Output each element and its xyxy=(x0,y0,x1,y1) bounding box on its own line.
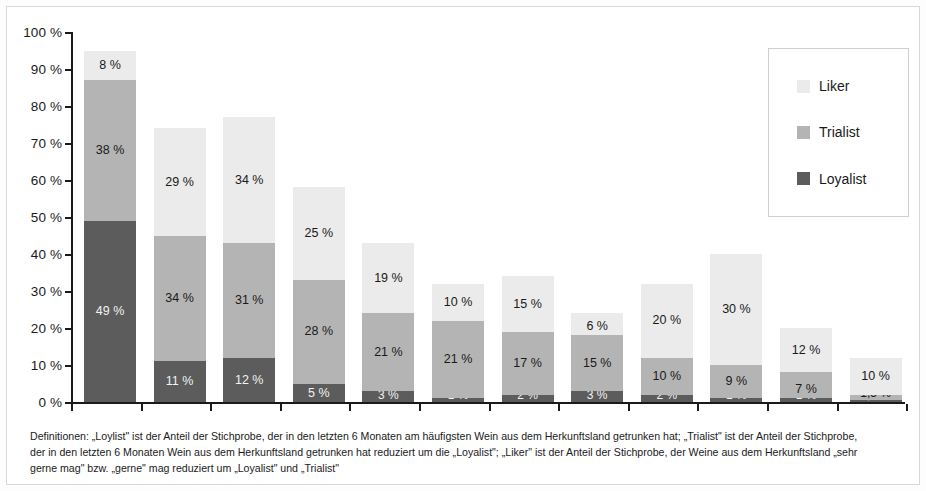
x-tick-mark xyxy=(558,404,560,411)
y-tick-mark xyxy=(65,254,71,256)
bar-segment-loyalist[interactable]: 1 % xyxy=(780,398,832,402)
bar-segment-liker[interactable]: 15 % xyxy=(502,276,554,332)
y-tick-label: 90 % xyxy=(31,62,62,77)
bar-column[interactable]: 2 %17 %15 % xyxy=(502,276,554,402)
bar-segment-liker[interactable]: 10 % xyxy=(850,358,902,395)
bar-column[interactable]: 1 %7 %12 % xyxy=(780,328,832,402)
bar-segment-trialist[interactable]: 21 % xyxy=(362,313,414,391)
bar-column[interactable]: 12 %31 %34 % xyxy=(223,117,275,402)
bar-segment-loyalist[interactable]: 1 % xyxy=(710,398,762,402)
bar-segment-label: 10 % xyxy=(861,370,890,383)
bar-column[interactable]: 49 %38 %8 % xyxy=(84,51,136,402)
bar-segment-liker[interactable]: 12 % xyxy=(780,328,832,372)
x-tick-mark xyxy=(628,404,630,411)
y-tick-label: 20 % xyxy=(31,321,62,336)
bar-segment-trialist[interactable]: 9 % xyxy=(710,365,762,398)
bar-segment-label: 8 % xyxy=(99,59,121,72)
x-tick-mark xyxy=(210,404,212,411)
bar-segment-trialist[interactable]: 21 % xyxy=(432,321,484,399)
bar-segment-label: 34 % xyxy=(165,292,194,305)
bar-segment-loyalist[interactable]: 1 % xyxy=(432,398,484,402)
bar-segment-trialist[interactable]: 10 % xyxy=(641,358,693,395)
bar-segment-label: 34 % xyxy=(235,174,264,187)
footnote-line-3: gerne mag" bzw. „gerne" mag reduziert um… xyxy=(30,460,898,476)
bar-segment-liker[interactable]: 29 % xyxy=(154,128,206,235)
bar-segment-trialist[interactable]: 15 % xyxy=(571,335,623,391)
bar-segment-label: 15 % xyxy=(513,298,542,311)
bar-segment-label: 15 % xyxy=(583,357,612,370)
x-tick-mark xyxy=(906,404,908,411)
bar-segment-label: 11 % xyxy=(166,375,194,388)
x-tick-mark xyxy=(489,404,491,411)
bar-column[interactable]: 1 %9 %30 % xyxy=(710,254,762,402)
legend-item-loyalist[interactable]: Loyalist xyxy=(797,171,908,187)
bar-segment-liker[interactable]: 8 % xyxy=(84,51,136,81)
bar-segment-label: 5 % xyxy=(308,387,330,400)
bar-segment-liker[interactable]: 30 % xyxy=(710,254,762,365)
bar-segment-loyalist[interactable]: 3 % xyxy=(362,391,414,402)
y-tick-label: 30 % xyxy=(31,284,62,299)
y-tick-mark xyxy=(65,69,71,71)
bar-segment-trialist[interactable]: 31 % xyxy=(223,243,275,358)
chart-figure: 100 %90 %80 %70 %60 %50 %40 %30 %20 %10 … xyxy=(0,0,926,491)
bar-segment-trialist[interactable]: 28 % xyxy=(293,280,345,384)
bar-column[interactable]: 2 %10 %20 % xyxy=(641,284,693,402)
bar-segment-loyalist[interactable]: 12 % xyxy=(223,358,275,402)
bar-segment-loyalist[interactable]: 5 % xyxy=(293,384,345,403)
bar-segment-label: 21 % xyxy=(444,353,473,366)
bar-segment-loyalist[interactable]: 49 % xyxy=(84,221,136,402)
y-tick-mark xyxy=(65,180,71,182)
bar-column[interactable]: 3 %21 %19 % xyxy=(362,243,414,402)
y-tick-mark xyxy=(65,328,71,330)
y-tick-label: 40 % xyxy=(31,247,62,262)
x-tick-mark xyxy=(141,404,143,411)
y-tick-mark xyxy=(65,217,71,219)
bar-segment-loyalist[interactable]: 2 % xyxy=(502,395,554,402)
bar-segment-label: 20 % xyxy=(653,314,682,327)
bar-segment-liker[interactable]: 20 % xyxy=(641,284,693,358)
bar-segment-label: 10 % xyxy=(444,296,473,309)
x-tick-mark xyxy=(837,404,839,411)
bar-segment-liker[interactable]: 25 % xyxy=(293,187,345,280)
bar-segment-loyalist[interactable]: 2 % xyxy=(641,395,693,402)
bar-segment-label: 38 % xyxy=(96,144,125,157)
y-tick-label: 60 % xyxy=(31,173,62,188)
bar-segment-trialist[interactable]: 34 % xyxy=(154,236,206,362)
y-tick-label: 10 % xyxy=(31,358,62,373)
x-tick-mark xyxy=(349,404,351,411)
bar-segment-liker[interactable]: 10 % xyxy=(432,284,484,321)
bar-segment-liker[interactable]: 19 % xyxy=(362,243,414,313)
bar-segment-label: 12 % xyxy=(792,344,821,357)
y-tick-label: 50 % xyxy=(31,210,62,225)
legend-swatch-loyalist-icon xyxy=(797,172,810,185)
legend-item-trialist[interactable]: Trialist xyxy=(797,124,908,140)
x-tick-mark xyxy=(280,404,282,411)
bar-segment-label: 21 % xyxy=(374,346,403,359)
legend-item-liker[interactable]: Liker xyxy=(797,78,908,94)
legend-swatch-trialist-icon xyxy=(797,126,810,139)
bar-segment-liker[interactable]: 34 % xyxy=(223,117,275,243)
bar-segment-label: 7 % xyxy=(795,383,817,396)
bar-segment-label: 10 % xyxy=(653,370,682,383)
bar-column[interactable]: 0,5 %1,5 %10 % xyxy=(850,358,902,402)
bar-segment-label: 29 % xyxy=(165,176,194,189)
bar-column[interactable]: 5 %28 %25 % xyxy=(293,187,345,402)
bar-column[interactable]: 11 %34 %29 % xyxy=(154,128,206,402)
bar-segment-trialist[interactable]: 38 % xyxy=(84,80,136,221)
bar-segment-trialist[interactable]: 7 % xyxy=(780,372,832,398)
bar-segment-liker[interactable]: 6 % xyxy=(571,313,623,335)
bar-segment-loyalist[interactable]: 3 % xyxy=(571,391,623,402)
y-tick-mark xyxy=(65,106,71,108)
bar-segment-loyalist[interactable]: 11 % xyxy=(154,361,206,402)
bar-segment-trialist[interactable]: 1,5 % xyxy=(850,395,902,401)
y-tick-mark xyxy=(65,291,71,293)
bar-segment-label: 6 % xyxy=(586,320,608,333)
y-tick-label: 70 % xyxy=(31,136,62,151)
legend-label: Liker xyxy=(819,78,849,94)
bar-column[interactable]: 3 %15 %6 % xyxy=(571,313,623,402)
bar-segment-loyalist[interactable]: 0,5 % xyxy=(850,400,902,402)
bar-segment-label: 12 % xyxy=(235,374,264,387)
bar-column[interactable]: 1 %21 %10 % xyxy=(432,284,484,402)
bar-segment-trialist[interactable]: 17 % xyxy=(502,332,554,395)
legend-label: Trialist xyxy=(819,124,860,140)
